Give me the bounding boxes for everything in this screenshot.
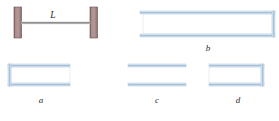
string-segment: [21, 22, 91, 25]
tube-label-a: a: [39, 95, 44, 105]
tube-d: [209, 64, 264, 86]
tube-label-c: c: [155, 95, 159, 105]
left-wall: [14, 7, 22, 38]
tube-a: [8, 64, 70, 86]
tube-c: [128, 64, 186, 86]
string-system: L: [14, 7, 98, 38]
tube-label-b: b: [206, 43, 211, 53]
tube-b: [140, 11, 275, 37]
figure-canvas: L b: [0, 0, 279, 121]
physics-figure: L b: [0, 0, 279, 121]
length-label-L: L: [49, 10, 55, 20]
right-wall: [90, 7, 98, 38]
tube-label-d: d: [236, 95, 241, 105]
